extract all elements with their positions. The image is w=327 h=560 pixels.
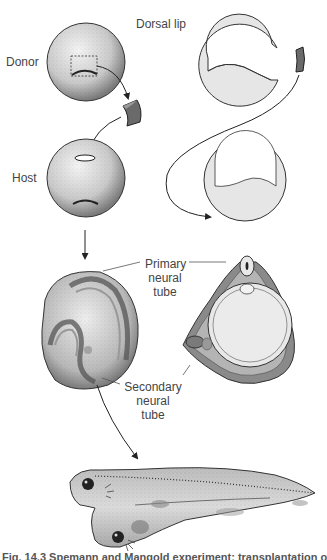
primary-label-line3: tube — [145, 285, 185, 299]
primary-label-line1: Primary — [145, 257, 185, 271]
primary-label-line2: neural — [145, 271, 185, 285]
secondary-label-line1: Secondary — [122, 380, 184, 394]
primary-leader-left — [103, 262, 140, 271]
conjoined-twin-tadpole — [70, 468, 315, 551]
donor-label: Donor — [6, 55, 39, 69]
dorsal-lip-label: Dorsal lip — [136, 17, 186, 31]
secondary-label-line2: neural — [122, 394, 184, 408]
primary-neural-tube-label: Primary neural tube — [145, 257, 185, 299]
secondary-neural-tube-label: Secondary neural tube — [122, 380, 184, 422]
figure-caption: Fig. 14.3 Spemann and Mangold experiment… — [2, 551, 327, 560]
secondary-label-line3: tube — [122, 408, 184, 422]
host-embryo — [47, 139, 125, 217]
donor-embryo — [47, 23, 125, 101]
host-label: Host — [12, 171, 37, 185]
host-section-with-graft — [204, 130, 286, 221]
double-neurula-embryo — [42, 272, 138, 389]
secondary-leader-right — [183, 365, 190, 375]
dorsal-lip-section — [199, 14, 305, 106]
excised-dorsal-lip-tissue — [123, 100, 141, 126]
neurula-cross-section — [183, 256, 295, 384]
